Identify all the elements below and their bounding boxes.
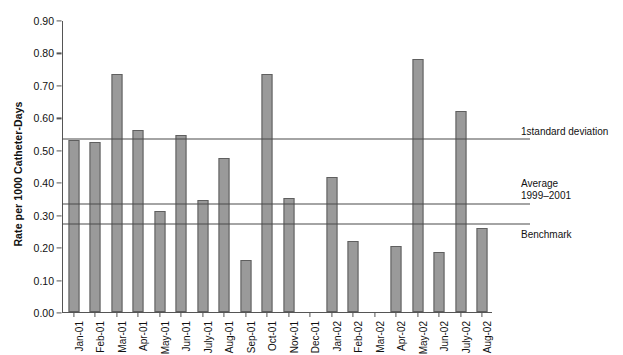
bar-category: Jun-02 bbox=[429, 21, 451, 312]
reference-line bbox=[62, 139, 530, 140]
bar-category: Aug-02 bbox=[472, 21, 494, 312]
reference-line bbox=[62, 204, 530, 205]
x-axis-tick bbox=[353, 312, 354, 317]
plot-area: Jan-01Feb-01Mar-01Apr-01May-01Jun-01July… bbox=[62, 21, 492, 313]
y-axis-tick-label: 0.60 bbox=[34, 112, 62, 124]
bar bbox=[412, 59, 423, 312]
bar bbox=[262, 74, 273, 312]
bar-category: Nov-01 bbox=[278, 21, 300, 312]
bar bbox=[111, 74, 122, 312]
bar bbox=[434, 252, 445, 312]
bar-category: Oct-01 bbox=[257, 21, 279, 312]
annotation-average-line2: 1999–2001 bbox=[521, 190, 571, 202]
x-axis-tick-label: Mar-02 bbox=[375, 321, 386, 353]
x-axis-tick-label: Aug-02 bbox=[482, 321, 493, 353]
bar-category: Dec-01 bbox=[300, 21, 322, 312]
annotation-average: Average 1999–2001 bbox=[521, 178, 571, 201]
bar-category: Jan-02 bbox=[321, 21, 343, 312]
x-axis-tick-label: Apr-02 bbox=[396, 321, 407, 351]
bar bbox=[68, 140, 79, 312]
x-axis-tick-label: Jun-02 bbox=[439, 321, 450, 352]
x-axis-tick bbox=[116, 312, 117, 317]
x-axis-tick-label: May-02 bbox=[418, 321, 429, 354]
reference-line bbox=[62, 223, 530, 224]
bar bbox=[90, 142, 101, 312]
x-axis-tick-label: Oct-01 bbox=[267, 321, 278, 351]
y-axis-tick-label: 0.70 bbox=[34, 80, 62, 92]
x-axis-tick bbox=[374, 312, 375, 317]
x-axis-tick bbox=[439, 312, 440, 317]
x-axis-tick-label: Jan-01 bbox=[74, 321, 85, 352]
bar-category: May-02 bbox=[407, 21, 429, 312]
y-axis-tick-label: 0.40 bbox=[34, 177, 62, 189]
x-axis-tick bbox=[224, 312, 225, 317]
bar bbox=[477, 228, 488, 312]
x-axis-tick bbox=[396, 312, 397, 317]
x-axis-tick bbox=[181, 312, 182, 317]
x-axis-tick-label: Feb-02 bbox=[353, 321, 364, 353]
y-axis-tick-label: 0.80 bbox=[34, 47, 62, 59]
bar-category: Sep-01 bbox=[235, 21, 257, 312]
annotation-one-standard-deviation: 1standard deviation bbox=[521, 126, 608, 138]
bar bbox=[391, 246, 402, 313]
x-axis-tick-label: May-01 bbox=[160, 321, 171, 354]
bar bbox=[154, 211, 165, 312]
bar-category: Apr-02 bbox=[386, 21, 408, 312]
y-axis-tick-label: 0.30 bbox=[34, 210, 62, 222]
x-axis-tick bbox=[331, 312, 332, 317]
bars-container: Jan-01Feb-01Mar-01Apr-01May-01Jun-01July… bbox=[63, 21, 492, 312]
x-axis-tick bbox=[95, 312, 96, 317]
y-axis-title: Rate per 1000 Catheter-Days bbox=[12, 74, 24, 274]
y-axis-tick-label: 0.00 bbox=[34, 307, 62, 319]
x-axis-tick-label: Dec-01 bbox=[310, 321, 321, 353]
bar-category: Mar-01 bbox=[106, 21, 128, 312]
bar bbox=[197, 200, 208, 312]
bar bbox=[219, 158, 230, 312]
bar-category: Jun-01 bbox=[171, 21, 193, 312]
x-axis-tick-label: Nov-01 bbox=[289, 321, 300, 353]
x-axis-tick bbox=[460, 312, 461, 317]
x-axis-tick-label: Mar-01 bbox=[117, 321, 128, 353]
y-axis-tick-label: 0.90 bbox=[34, 15, 62, 27]
bar-category: Feb-02 bbox=[343, 21, 365, 312]
x-axis-tick-label: July-02 bbox=[461, 321, 472, 353]
y-axis-tick-label: 0.10 bbox=[34, 275, 62, 287]
x-axis-tick-label: July-01 bbox=[203, 321, 214, 353]
x-axis-tick bbox=[267, 312, 268, 317]
x-axis-tick bbox=[138, 312, 139, 317]
bar bbox=[455, 111, 466, 312]
bar-category: Jan-01 bbox=[63, 21, 85, 312]
y-axis-tick-label: 0.20 bbox=[34, 242, 62, 254]
x-axis-tick bbox=[417, 312, 418, 317]
bar-category: Feb-01 bbox=[85, 21, 107, 312]
y-axis-tick-label: 0.50 bbox=[34, 145, 62, 157]
x-axis-tick-label: Feb-01 bbox=[95, 321, 106, 353]
bar-category: May-01 bbox=[149, 21, 171, 312]
annotation-benchmark: Benchmark bbox=[521, 229, 572, 241]
x-axis-tick bbox=[245, 312, 246, 317]
x-axis-tick bbox=[159, 312, 160, 317]
x-axis-tick-label: Jan-02 bbox=[332, 321, 343, 352]
x-axis-tick bbox=[202, 312, 203, 317]
bar-chart: Rate per 1000 Catheter-Days Jan-01Feb-01… bbox=[0, 0, 623, 355]
bar-category: Mar-02 bbox=[364, 21, 386, 312]
bar bbox=[240, 260, 251, 312]
x-axis-tick-label: Aug-01 bbox=[224, 321, 235, 353]
x-axis-tick-label: Sep-01 bbox=[246, 321, 257, 353]
bar bbox=[133, 130, 144, 312]
bar-category: July-01 bbox=[192, 21, 214, 312]
x-axis-tick bbox=[310, 312, 311, 317]
bar bbox=[283, 198, 294, 312]
bar-category: July-02 bbox=[450, 21, 472, 312]
x-axis-tick bbox=[73, 312, 74, 317]
bar bbox=[326, 177, 337, 312]
x-axis-tick bbox=[288, 312, 289, 317]
x-axis-tick-label: Jun-01 bbox=[181, 321, 192, 352]
x-axis-tick-label: Apr-01 bbox=[138, 321, 149, 351]
x-axis-tick bbox=[482, 312, 483, 317]
bar-category: Aug-01 bbox=[214, 21, 236, 312]
annotation-average-line1: Average bbox=[521, 178, 571, 190]
bar-category: Apr-01 bbox=[128, 21, 150, 312]
bar bbox=[348, 241, 359, 312]
